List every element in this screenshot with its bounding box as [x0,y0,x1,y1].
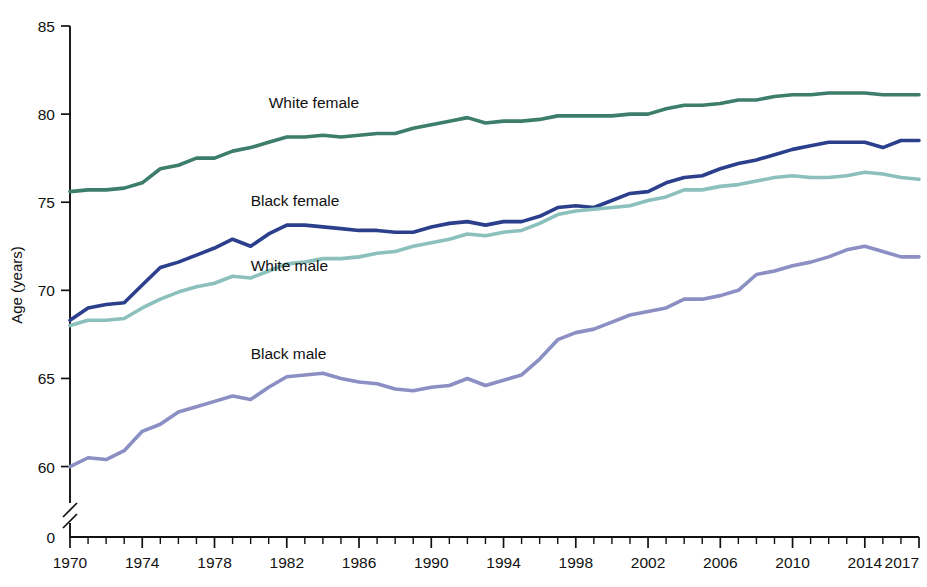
series-label-white-female: White female [269,94,359,111]
x-axis-tick-label: 1982 [270,554,304,571]
x-axis-tick-label: 1994 [486,554,521,571]
y-axis-tick-label: 65 [38,370,55,387]
series-lines-layer [70,93,919,467]
series-line-black-male [70,246,919,466]
y-axis-tick-label: 75 [38,194,55,211]
x-axis-tick-label: 1986 [342,554,376,571]
x-axis-tick-label: 2006 [703,554,737,571]
x-axis-tick-label: 1970 [53,554,88,571]
series-label-black-female: Black female [251,192,340,209]
x-axis-tick-label: 1990 [414,554,449,571]
series-label-white-male: White male [251,257,329,274]
series-label-black-male: Black male [251,345,327,362]
x-axis-tick-label: 1998 [559,554,593,571]
series-line-black-female [70,141,919,321]
y-axis-title: Age (years) [8,246,25,324]
x-axis-tick-label: 2017 [885,554,919,571]
life-expectancy-line-chart: 0606570758085197019741978198219861990199… [0,0,927,587]
x-axis-tick-label: 2002 [631,554,665,571]
y-axis-tick-label: 80 [38,106,56,123]
x-axis-tick-label: 2014 [848,554,883,571]
x-axis-tick-label: 1974 [125,554,160,571]
y-axis-tick-label: 85 [38,18,55,35]
x-axis-tick-label: 1978 [197,554,231,571]
y-axis-tick-label: 60 [38,459,56,476]
y-axis-tick-label: 70 [38,282,56,299]
y-axis-tick-label: 0 [46,529,55,546]
x-axis-tick-label: 2010 [775,554,810,571]
axis-title-layer: Age (years) [8,246,25,324]
chart-canvas: 0606570758085197019741978198219861990199… [0,0,927,587]
series-line-white-male [70,172,919,325]
